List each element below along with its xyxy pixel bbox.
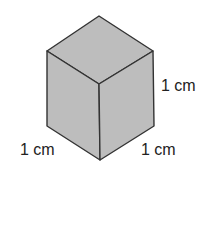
left-edge-label: 1 cm: [20, 142, 55, 158]
height-label: 1 cm: [161, 78, 196, 94]
right-edge-label: 1 cm: [141, 142, 176, 158]
